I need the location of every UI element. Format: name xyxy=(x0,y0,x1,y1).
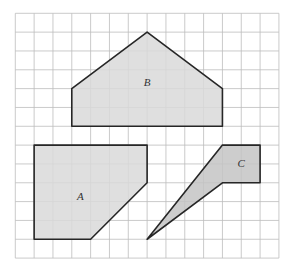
grid-figure: A B C xyxy=(0,0,292,269)
shape-c-label: C xyxy=(238,157,246,169)
shape-b: B xyxy=(72,32,223,126)
shape-a-polygon xyxy=(34,145,147,239)
shape-b-label: B xyxy=(144,76,151,88)
shape-a-label: A xyxy=(76,190,84,202)
shape-a: A xyxy=(34,145,147,239)
